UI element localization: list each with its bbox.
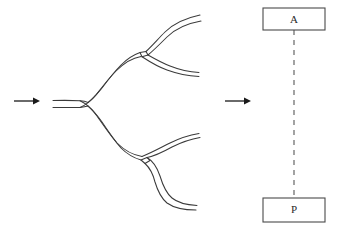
figure-canvas: A P — [0, 0, 339, 231]
terminal-2-wall-upper — [148, 55, 199, 73]
transform-arrow — [225, 98, 251, 105]
lower-branch-wall-inner — [80, 101, 142, 157]
terminal-4-wall-inner — [145, 164, 196, 211]
inflow-arrow — [14, 98, 40, 105]
upper-junction-node — [140, 52, 148, 57]
node-a[interactable]: A — [263, 8, 325, 30]
abstract-graph: A P — [263, 8, 325, 222]
upper-branch-wall-inner — [80, 57, 141, 108]
inflow-arrow-head — [33, 98, 40, 105]
branching-structure-diagram: A P — [0, 0, 339, 231]
terminal-1-wall-outer — [146, 15, 200, 52]
terminal-1-wall-inner — [148, 21, 201, 55]
terminal-3-wall-lower — [147, 138, 200, 158]
transform-arrow-head — [244, 98, 251, 105]
node-p-label: P — [291, 203, 297, 215]
tube-tree — [53, 15, 201, 210]
node-p[interactable]: P — [263, 198, 325, 222]
terminal-3-wall-upper — [142, 134, 199, 157]
node-a-label: A — [290, 13, 298, 25]
